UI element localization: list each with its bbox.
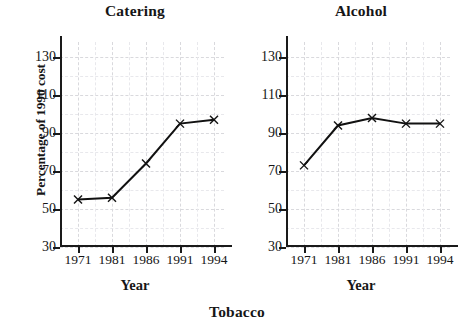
x-axis-tick-label: 1986 bbox=[133, 252, 160, 268]
series-line bbox=[304, 118, 440, 165]
x-axis-title-catering: Year bbox=[22, 277, 248, 294]
x-axis-tick-label: 1981 bbox=[325, 252, 352, 268]
chart-title-catering: Catering bbox=[22, 2, 248, 20]
plot-area-alcohol: 3050709011013019711981198619911994 bbox=[286, 42, 450, 247]
data-point-marker bbox=[300, 161, 308, 169]
x-axis-tick-label: 1971 bbox=[65, 252, 92, 268]
y-axis-tick-label: 30 bbox=[248, 239, 282, 255]
chart-panel-catering: Catering 3050709011013019711981198619911… bbox=[22, 0, 248, 300]
y-axis-tick-label: 130 bbox=[22, 49, 56, 65]
y-axis-tick-label: 30 bbox=[22, 239, 56, 255]
y-axis-tick-label: 90 bbox=[22, 125, 56, 141]
data-series bbox=[286, 42, 450, 247]
y-axis-tick-label: 130 bbox=[248, 49, 282, 65]
x-axis-title-alcohol: Year bbox=[248, 277, 474, 294]
x-axis-tick-label: 1981 bbox=[99, 252, 126, 268]
chart-panel-alcohol: Alcohol 30507090110130197119811986199119… bbox=[248, 0, 474, 300]
y-axis-tick-label: 50 bbox=[248, 201, 282, 217]
data-point-marker bbox=[142, 159, 150, 167]
x-axis-tick-label: 1991 bbox=[167, 252, 194, 268]
bottom-caption: Tobacco bbox=[0, 303, 474, 320]
y-axis-tick-label: 70 bbox=[248, 163, 282, 179]
x-axis-tick-label: 1994 bbox=[427, 252, 454, 268]
data-series bbox=[60, 42, 224, 247]
chart-title-alcohol: Alcohol bbox=[248, 2, 474, 20]
plot-area-catering: 3050709011013019711981198619911994 bbox=[60, 42, 224, 247]
y-axis-tick-label: 110 bbox=[248, 87, 282, 103]
x-axis-tick-label: 1994 bbox=[201, 252, 228, 268]
y-axis-tick-label: 70 bbox=[22, 163, 56, 179]
x-axis-tick-label: 1991 bbox=[393, 252, 420, 268]
x-axis-tick-label: 1986 bbox=[359, 252, 386, 268]
gridline-horizontal bbox=[286, 247, 450, 248]
x-axis-tick-label: 1971 bbox=[291, 252, 318, 268]
y-axis-tick-label: 110 bbox=[22, 87, 56, 103]
y-axis-tick-label: 90 bbox=[248, 125, 282, 141]
y-axis-tick-label: 50 bbox=[22, 201, 56, 217]
gridline-horizontal bbox=[60, 247, 224, 248]
series-line bbox=[78, 120, 214, 200]
